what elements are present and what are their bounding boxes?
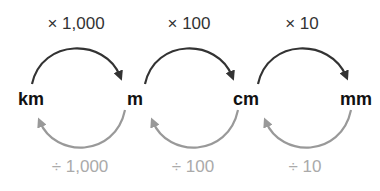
multiply-label-km-m: × 1,000 [47,14,104,34]
multiply-label-cm-mm: × 10 [285,14,319,34]
multiply-arrow-km-m [32,48,120,84]
divide-label-mm-cm: ÷ 10 [289,157,322,177]
divide-arrow-mm-cm [266,110,351,148]
multiply-arrow-cm-mm [258,48,346,84]
divide-label-m-km: ÷ 1,000 [52,157,109,177]
divide-label-cm-m: ÷ 100 [172,157,214,177]
multiply-arrow-m-cm [145,48,232,84]
unit-km: km [18,89,44,110]
unit-cm: cm [233,89,259,110]
unit-mm: mm [340,89,372,110]
divide-arrow-cm-m [153,110,238,148]
multiply-label-m-cm: × 100 [167,14,210,34]
unit-m: m [127,89,143,110]
divide-arrow-m-km [40,110,125,148]
